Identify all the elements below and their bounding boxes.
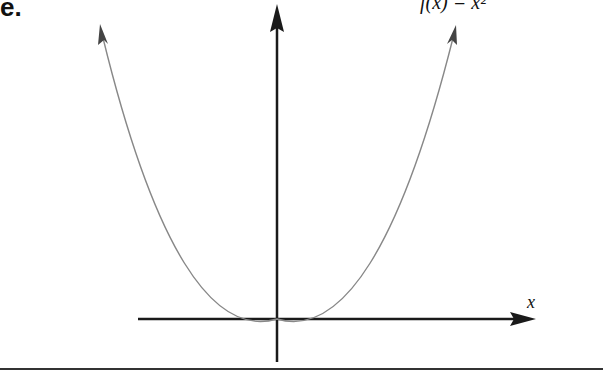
parabola-graph bbox=[0, 0, 603, 371]
y-axis bbox=[270, 4, 284, 362]
x-axis bbox=[138, 312, 536, 326]
left-arrow-icon bbox=[98, 24, 108, 45]
